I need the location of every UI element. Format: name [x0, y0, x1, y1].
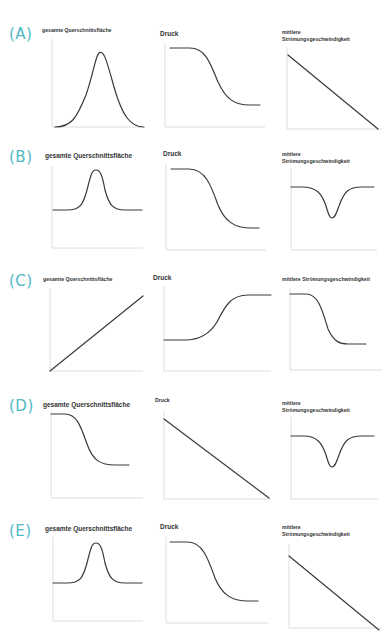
panel-cross-section: gesamte Querschnittsfläche — [45, 152, 150, 254]
velocity-plot — [282, 43, 387, 129]
option-row-c: (C) gesamte Querschnittsfläche Druck mit… — [0, 272, 391, 392]
pressure-plot — [163, 160, 273, 252]
panel-pressure: Druck — [153, 274, 273, 376]
velocity-plot — [282, 415, 387, 501]
option-row-a: (A) gesamte Querschnittsfläche Druck mit… — [0, 22, 391, 142]
panel-title: mittlere Strömungsgeschwindigkeit — [282, 151, 350, 164]
panel-velocity: mittlere Strömungsgeschwindigkeit — [282, 400, 387, 502]
option-label: (C) — [9, 272, 33, 290]
pressure-plot — [153, 282, 273, 374]
option-label: (D) — [9, 397, 34, 415]
cross-section-plot — [43, 409, 148, 501]
panel-title: gesamte Querschnittsfläche — [43, 276, 112, 283]
panel-title: gesamte Querschnittsfläche — [43, 401, 130, 409]
cross-section-plot — [43, 284, 148, 376]
pressure-plot — [160, 533, 272, 625]
panel-velocity: mittlere Strömungsgeschwindigkeit — [282, 276, 387, 378]
panel-cross-section: gesamte Querschnittsfläche — [43, 401, 148, 503]
option-label: (E) — [9, 522, 32, 540]
panel-pressure: Druck — [155, 397, 275, 501]
panel-title: Druck — [155, 397, 170, 404]
panel-title: mittlere Strömungsgeschwindigkeit — [282, 400, 350, 413]
panel-title: mittlere Strömungsgeschwindigkeit — [282, 276, 370, 283]
velocity-plot — [282, 540, 387, 630]
option-row-e: (E) gesamte Querschnittsfläche Druck mit… — [0, 522, 391, 636]
pressure-plot — [160, 37, 270, 129]
panel-title: Druck — [160, 523, 178, 531]
panel-velocity: mittlere Strömungsgeschwindigkeit — [282, 524, 387, 632]
option-label: (B) — [9, 148, 33, 166]
panel-velocity: mittlere Strömungsgeschwindigkeit — [282, 151, 387, 253]
panel-cross-section: gesamte Querschnittsfläche — [42, 27, 147, 129]
panel-cross-section: gesamte Querschnittsfläche — [43, 276, 148, 378]
velocity-plot — [282, 166, 387, 252]
panel-title: Druck — [163, 150, 181, 158]
cross-section-plot — [45, 533, 150, 625]
panel-title: gesamte Querschnittsfläche — [45, 152, 132, 160]
panel-pressure: Druck — [163, 150, 273, 252]
option-row-b: (B) gesamte Querschnittsfläche Druck mit… — [0, 148, 391, 268]
option-label: (A) — [9, 25, 32, 43]
panel-title: gesamte Querschnittsfläche — [42, 27, 111, 34]
panel-title: gesamte Querschnittsfläche — [45, 525, 132, 533]
panel-pressure: Druck — [160, 523, 272, 627]
panel-title: mittlere Strömungsgeschwindigkeit — [282, 29, 350, 42]
pressure-plot — [155, 407, 275, 502]
cross-section-plot — [42, 37, 147, 129]
velocity-plot — [282, 284, 387, 374]
option-row-d: (D) gesamte Querschnittsfläche Druck mit… — [0, 397, 391, 517]
panel-title: Druck — [153, 274, 171, 282]
panel-title: mittlere Strömungsgeschwindigkeit — [282, 524, 350, 537]
panel-pressure: Druck — [160, 27, 270, 129]
cross-section-plot — [45, 160, 150, 252]
panel-cross-section: gesamte Querschnittsfläche — [45, 525, 150, 627]
panel-velocity: mittlere Strömungsgeschwindigkeit — [282, 29, 387, 129]
